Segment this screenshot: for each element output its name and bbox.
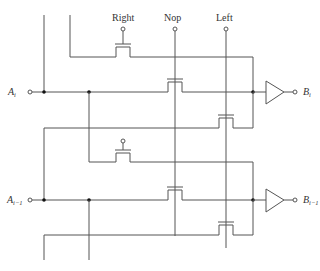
label-nop: Nop: [164, 12, 181, 23]
label-a-i-minus-1: Ai−1: [6, 194, 23, 206]
left-terminal-icon: [224, 27, 228, 31]
label-left: Left: [216, 12, 233, 23]
b-i-terminal-icon: [293, 90, 297, 94]
right-transistor-lower: [89, 153, 253, 200]
label-a-i: Ai: [7, 86, 16, 98]
a-i-minus-1-terminal-icon: [28, 198, 32, 202]
junction-dot: [42, 90, 46, 94]
buffer-icon: [266, 189, 284, 212]
left-transistor-upper: [44, 92, 253, 128]
label-b-i: Bi: [303, 86, 311, 98]
label-right: Right: [112, 12, 134, 23]
b-i-minus-1-terminal-icon: [293, 198, 297, 202]
a-i-minus-1-line: [32, 190, 253, 200]
a-i-terminal-icon: [28, 90, 32, 94]
junction-dot: [42, 198, 46, 202]
buffer-icon: [266, 81, 284, 104]
right-terminal-lower-icon: [121, 139, 125, 143]
nop-terminal-icon: [173, 27, 177, 31]
a-i-line: [32, 82, 253, 92]
label-b-i-minus-1: Bi−1: [303, 194, 319, 206]
right-terminal-icon: [121, 27, 125, 31]
left-transistor-lower: [44, 200, 253, 235]
shifter-circuit-diagram: Right Nop Left Ai Bi Ai−1: [0, 0, 320, 271]
